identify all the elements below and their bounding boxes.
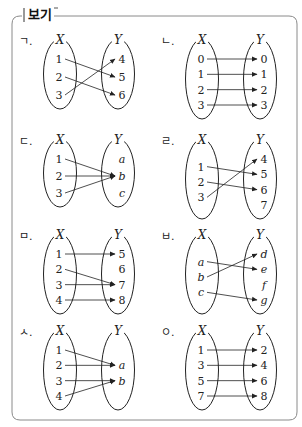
diagram-label: ㅇ. — [161, 326, 175, 339]
diagram-label: ㄷ. — [19, 135, 33, 148]
mapping-arrow — [207, 167, 257, 175]
y-element: a — [119, 153, 126, 166]
y-element: e — [261, 263, 268, 276]
x-element: 1 — [56, 248, 63, 261]
mapping-diagram: ㅅ.XY1234ab — [18, 321, 148, 413]
set-y-name: Y — [114, 228, 123, 242]
y-element: d — [260, 248, 267, 261]
y-element: 1 — [261, 68, 268, 81]
x-element: 1 — [56, 53, 63, 66]
mapping-arrow — [207, 182, 257, 190]
x-element: 2 — [56, 170, 63, 183]
y-element: 7 — [119, 279, 126, 292]
y-element: c — [119, 187, 125, 200]
set-x-name: X — [197, 228, 207, 242]
mapping-diagram: ㄷ.XY123abc — [18, 130, 148, 210]
x-element: 1 — [198, 68, 205, 81]
y-element: 4 — [119, 53, 126, 66]
x-element: 3 — [198, 359, 205, 372]
mapping-arrow — [65, 77, 115, 95]
set-x-name: X — [55, 133, 65, 147]
mapping-diagram: ㄱ.XY123456 — [18, 30, 148, 112]
set-y-name: Y — [256, 228, 265, 242]
mapping-arrow — [207, 159, 257, 197]
y-element: 2 — [261, 344, 268, 357]
x-element: 3 — [56, 187, 63, 200]
diagram-label: ㄱ. — [19, 35, 33, 48]
mapping-diagram-svg: ㅇ.XY13572468 — [160, 321, 290, 413]
set-y-name: Y — [256, 133, 265, 147]
x-element: b — [197, 271, 204, 284]
mapping-arrow — [65, 269, 115, 284]
y-element: 6 — [119, 263, 126, 276]
x-element: 3 — [198, 99, 205, 112]
mapping-diagram: ㄹ.XY1234567 — [160, 130, 290, 222]
set-y-name: Y — [114, 133, 123, 147]
x-element: 1 — [56, 344, 63, 357]
y-element: 8 — [119, 294, 126, 307]
y-element: 4 — [261, 359, 268, 372]
y-element: 0 — [261, 53, 268, 66]
x-element: 4 — [56, 294, 63, 307]
y-element: f — [261, 279, 268, 292]
y-element: 6 — [261, 375, 268, 388]
set-y-name: Y — [114, 324, 123, 338]
mapping-arrow — [207, 254, 257, 277]
set-x-name: X — [197, 324, 207, 338]
x-element: 4 — [56, 390, 63, 403]
mapping-diagram-svg: ㄱ.XY123456 — [18, 30, 148, 112]
y-element: g — [260, 294, 267, 307]
x-element: 3 — [56, 279, 63, 292]
y-element: 3 — [261, 99, 268, 112]
x-element: 2 — [56, 263, 63, 276]
x-element: 5 — [198, 375, 205, 388]
y-element: b — [118, 375, 125, 388]
mapping-diagram-svg: ㅁ.XY12345678 — [18, 225, 148, 317]
set-x-name: X — [197, 133, 207, 147]
y-element: 6 — [261, 184, 268, 197]
y-element: 2 — [261, 84, 268, 97]
mapping-arrow — [65, 159, 115, 176]
diagram-label: ㄴ. — [161, 35, 175, 48]
y-element: b — [118, 170, 125, 183]
x-element: 1 — [198, 161, 205, 174]
set-y-name: Y — [256, 33, 265, 47]
mapping-diagram: ㅂ.XYabcdefg — [160, 225, 290, 317]
x-element: 2 — [198, 176, 205, 189]
diagram-label: ㄹ. — [161, 135, 175, 148]
y-element: 5 — [119, 248, 126, 261]
mapping-diagram-svg: ㄷ.XY123abc — [18, 130, 148, 210]
x-element: 3 — [56, 89, 63, 102]
set-x-name: X — [197, 33, 207, 47]
x-element: 2 — [56, 359, 63, 372]
diagram-label: ㅂ. — [161, 230, 175, 243]
y-element: 5 — [261, 168, 268, 181]
y-element: 8 — [261, 390, 268, 403]
mapping-diagram-svg: ㅅ.XY1234ab — [18, 321, 148, 413]
x-element: 3 — [56, 375, 63, 388]
x-element: a — [198, 256, 205, 269]
mapping-arrow — [65, 381, 115, 396]
mapping-diagram-svg: ㅂ.XYabcdefg — [160, 225, 290, 317]
mapping-diagram-svg: ㄴ.XY01230123 — [160, 30, 290, 122]
x-element: 3 — [198, 191, 205, 204]
mapping-diagram-svg: ㄹ.XY1234567 — [160, 130, 290, 222]
y-element: 6 — [119, 89, 126, 102]
mapping-arrow — [65, 59, 115, 77]
y-element: 4 — [261, 153, 268, 166]
mapping-arrow — [65, 176, 115, 193]
mapping-diagram: ㅇ.XY13572468 — [160, 321, 290, 413]
set-x-name: X — [55, 33, 65, 47]
x-element: 1 — [56, 153, 63, 166]
diagram-label: ㅁ. — [19, 230, 33, 243]
x-element: 7 — [198, 390, 205, 403]
y-element: a — [119, 359, 126, 372]
mapping-arrow — [65, 59, 115, 95]
mapping-arrow — [65, 350, 115, 365]
mapping-diagram: ㄴ.XY01230123 — [160, 30, 290, 122]
y-element: 5 — [119, 71, 126, 84]
x-element: 1 — [198, 344, 205, 357]
x-element: 0 — [198, 53, 205, 66]
box-title: 보기 — [26, 7, 54, 23]
y-element: 7 — [261, 199, 268, 212]
